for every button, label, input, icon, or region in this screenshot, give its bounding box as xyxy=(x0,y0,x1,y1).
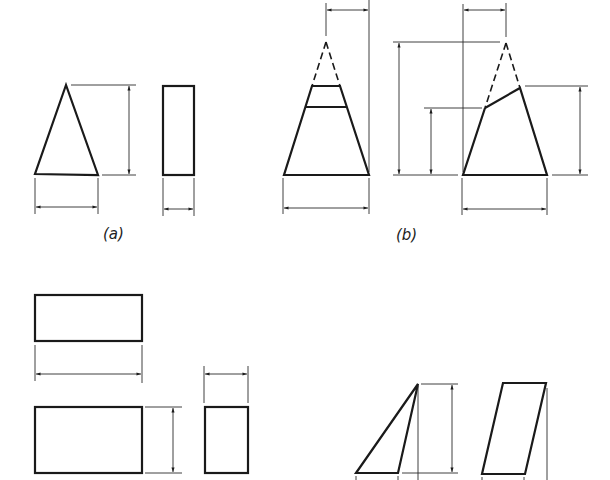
side-view-rectangle xyxy=(205,407,248,473)
truncated-cone-front-view xyxy=(284,86,369,175)
panel-b-left xyxy=(283,0,369,214)
panel-a: (a) xyxy=(35,85,194,243)
top-view-rectangle xyxy=(35,295,142,341)
technical-drawing: (a) (b) xyxy=(0,0,610,480)
panel-a-label: (a) xyxy=(103,225,124,243)
triangle-view xyxy=(356,384,418,473)
panel-c xyxy=(35,295,248,473)
panel-b-label: (b) xyxy=(396,226,417,244)
front-view-rectangle xyxy=(35,407,142,473)
panel-d xyxy=(356,383,547,480)
parallelogram-view xyxy=(482,383,546,474)
rectangle-side-view xyxy=(163,86,194,175)
panel-b-right: (b) xyxy=(393,3,588,244)
oblique-truncated-cone xyxy=(463,88,547,175)
triangle-front-view xyxy=(35,85,98,175)
